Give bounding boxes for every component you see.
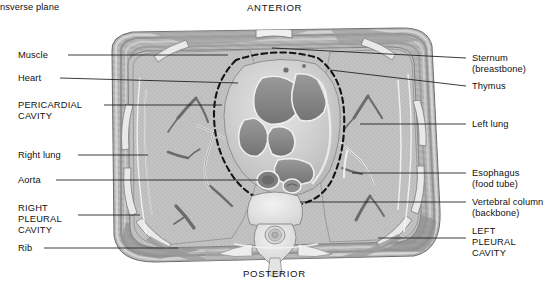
- label-sternum: Sternum (breastbone): [472, 53, 526, 75]
- orientation-posterior: POSTERIOR: [243, 268, 306, 279]
- heart-chamber-left-ventricle: [268, 127, 296, 157]
- label-muscle: Muscle: [18, 50, 48, 61]
- orientation-anterior: ANTERIOR: [247, 2, 302, 13]
- label-thymus: Thymus: [472, 81, 506, 92]
- thoracic-cross-section-illustration: [0, 0, 549, 284]
- label-rib: Rib: [18, 243, 32, 254]
- label-pericardial-cavity: PERICARDIAL CAVITY: [18, 100, 82, 122]
- thoracic-cavity: [122, 28, 427, 277]
- label-vertebral-column: Vertebral column (backbone): [472, 197, 543, 219]
- plane-caption: nsverse plane: [0, 2, 59, 13]
- label-esophagus: Esophagus (food tube): [472, 168, 519, 190]
- aorta: [257, 171, 279, 189]
- anatomy-figure: nsverse plane ANTERIOR POSTERIOR MuscleH…: [0, 0, 549, 284]
- esophagus: [283, 179, 301, 193]
- label-right-pleural-cavity: RIGHT PLEURAL CAVITY: [18, 203, 62, 237]
- heart-chamber-left-atrium: [239, 118, 268, 156]
- label-right-lung: Right lung: [18, 150, 61, 161]
- label-left-lung: Left lung: [472, 119, 509, 130]
- label-heart: Heart: [18, 73, 41, 84]
- label-left-pleural-cavity: LEFT PLEURAL CAVITY: [472, 226, 516, 260]
- label-aorta: Aorta: [18, 175, 41, 186]
